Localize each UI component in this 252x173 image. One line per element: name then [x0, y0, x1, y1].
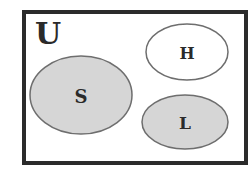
- venn-diagram: U S H L: [0, 0, 252, 173]
- set-s-label: S: [75, 86, 88, 107]
- universe-label: U: [35, 16, 61, 51]
- set-l-label: L: [179, 113, 191, 133]
- set-h-label: H: [179, 44, 194, 63]
